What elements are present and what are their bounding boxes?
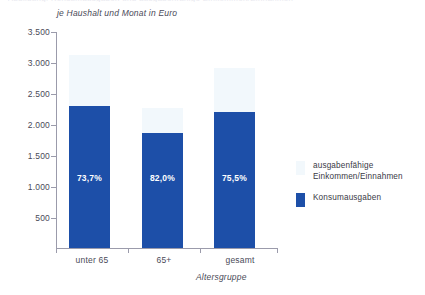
y-tick-label: 2.500	[6, 89, 50, 99]
x-axis-label-65plus: 65+	[128, 255, 200, 265]
bar-value-65plus	[142, 133, 183, 248]
value-swatch-icon	[296, 193, 305, 207]
y-tick-label-row: 3.000	[0, 58, 50, 59]
total-swatch-icon	[296, 161, 305, 175]
plot-area: 3.500 3.000 2.500 2.000 1.500 1.000 500 …	[0, 0, 425, 295]
y-tick-mark	[51, 156, 57, 157]
y-tick-label-row: 2.000	[0, 120, 50, 121]
y-tick-label: 1.000	[6, 182, 50, 192]
bar-label-unter-65: 73,7%	[69, 173, 110, 183]
y-tick-label-row: 500	[0, 213, 50, 214]
chart-legend: ausgabenfähige Einkommen/Einnahmen Konsu…	[296, 160, 421, 222]
legend-item-ausgabenfaehige-einkommen: ausgabenfähige Einkommen/Einnahmen	[296, 160, 421, 182]
y-tick-mark	[51, 63, 57, 64]
x-tick-mark	[200, 248, 201, 253]
y-tick-label-row: 2.500	[0, 89, 50, 90]
x-tick-mark	[128, 248, 129, 253]
y-tick-label: 1.500	[6, 151, 50, 161]
legend-label: ausgabenfähige Einkommen/Einnahmen	[313, 160, 421, 182]
y-tick-label-row: 1.000	[0, 182, 50, 183]
y-tick-mark	[51, 32, 57, 33]
y-tick-mark	[51, 94, 57, 95]
y-tick-label-row: 1.500	[0, 151, 50, 152]
y-tick-mark	[51, 187, 57, 188]
chart-container: Abbildung: Konsumausgaben und ausgabenfä…	[0, 0, 425, 295]
y-axis-line	[56, 32, 57, 249]
y-tick-label: 500	[6, 213, 50, 223]
x-tick-mark	[56, 248, 57, 253]
y-tick-label-row: 3.500	[0, 27, 50, 28]
bar-label-65plus: 82,0%	[142, 173, 183, 183]
legend-item-konsumausgaben: Konsumausgaben	[296, 192, 421, 212]
x-axis-label-unter-65: unter 65	[56, 255, 128, 265]
bar-label-gesamt: 75,5%	[214, 173, 255, 183]
x-tick-mark	[277, 248, 278, 253]
y-tick-label: 2.000	[6, 120, 50, 130]
y-tick-mark	[51, 125, 57, 126]
x-axis-line	[56, 248, 278, 249]
x-axis-title: Altersgruppe	[196, 272, 247, 282]
y-tick-mark	[51, 218, 57, 219]
y-tick-label: 3.000	[6, 58, 50, 68]
x-axis-label-gesamt: gesamt	[204, 255, 276, 265]
legend-label: Konsumausgaben	[313, 192, 421, 203]
y-tick-label: 3.500	[6, 27, 50, 37]
